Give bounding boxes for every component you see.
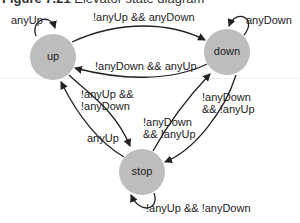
edge-label-up-up: anyUp	[11, 14, 43, 26]
edge-label-stop-down-1: !anyDown	[143, 116, 192, 128]
edge-label-down-down: anyDown	[246, 14, 292, 26]
edge-label-stop-down-2: && !anyUp	[143, 128, 196, 140]
node-down-label: down	[204, 45, 250, 57]
node-up-label: up	[30, 50, 76, 62]
edge-label-up-down: !anyUp && anyDown	[93, 11, 195, 23]
edge-label-down-stop-1: !anyDown	[202, 91, 251, 103]
edge-up-down	[72, 26, 205, 42]
edge-label-up-stop-1: !anyUp &&	[81, 88, 134, 100]
node-stop-label: stop	[119, 165, 165, 177]
edge-label-down-up: !anyDown && anyUp	[95, 60, 197, 72]
edge-label-stop-stop: !anyUp && !anyDown	[146, 202, 251, 214]
edge-label-down-stop-2: && !anyUp	[202, 103, 255, 115]
edge-label-stop-up: anyUp	[87, 132, 119, 144]
state-diagram	[0, 0, 300, 223]
edge-label-up-stop-2: !anyDown	[81, 100, 130, 112]
